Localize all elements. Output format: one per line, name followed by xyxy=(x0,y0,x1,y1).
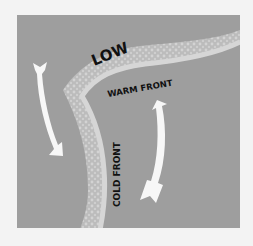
cold-front-label: COLD FRONT xyxy=(112,141,122,207)
weather-front-diagram: LOW WARM FRONT COLD FRONT xyxy=(0,0,253,246)
